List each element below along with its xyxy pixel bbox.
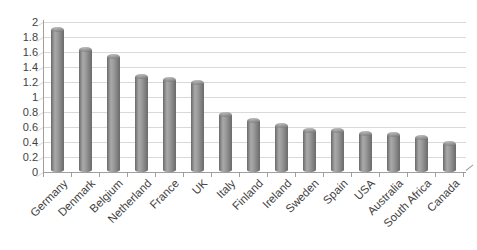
bar-canada: [443, 141, 456, 172]
bar-south-africa: [415, 135, 428, 172]
y-axis-tick-label: 0.8: [0, 105, 38, 119]
gridline: [43, 22, 466, 23]
bar-denmark: [79, 47, 92, 172]
y-axis-tick-label: 0.6: [0, 120, 38, 134]
y-axis-tick-label: 0.4: [0, 135, 38, 149]
bar-ireland: [275, 123, 288, 172]
floor-edge: [466, 165, 474, 171]
y-axis-tick-label: 1.2: [0, 75, 38, 89]
y-axis-tick-label: 1.8: [0, 30, 38, 44]
category-tick: [295, 173, 296, 177]
category-tick: [463, 173, 464, 177]
x-axis-label: France: [148, 177, 182, 211]
y-axis-tick-label: 0.2: [0, 150, 38, 164]
x-axis-label: Spain: [320, 177, 349, 206]
bar-france: [163, 77, 176, 172]
bar-australia: [387, 132, 400, 172]
bar-italy: [219, 112, 232, 172]
bar-finland: [247, 118, 260, 172]
category-tick: [379, 173, 380, 177]
y-axis-line: [43, 20, 44, 173]
category-tick: [323, 173, 324, 177]
category-tick: [43, 173, 44, 177]
bar-chart: 00.20.40.60.811.21.41.61.82GermanyDenmar…: [0, 0, 477, 250]
x-axis-label: UK: [190, 177, 210, 197]
bar-usa: [359, 131, 372, 172]
category-tick: [71, 173, 72, 177]
category-tick: [267, 173, 268, 177]
y-axis-tick-label: 2: [0, 15, 38, 29]
gridline: [43, 37, 466, 38]
x-axis-label: Finland: [230, 177, 265, 212]
bar-uk: [191, 80, 204, 172]
category-tick: [407, 173, 408, 177]
gridline: [43, 52, 466, 53]
x-axis-label: Italy: [214, 177, 237, 200]
category-tick: [183, 173, 184, 177]
category-tick: [351, 173, 352, 177]
bar-spain: [331, 128, 344, 172]
bar-belgium: [107, 54, 120, 172]
y-axis-tick-label: 1: [0, 90, 38, 104]
y-axis-tick-label: 0: [0, 165, 38, 179]
category-tick: [127, 173, 128, 177]
category-tick: [99, 173, 100, 177]
y-axis-tick-label: 1.4: [0, 60, 38, 74]
bar-germany: [51, 27, 64, 172]
category-tick: [435, 173, 436, 177]
category-tick: [211, 173, 212, 177]
bar-netherland: [135, 74, 148, 172]
category-tick: [155, 173, 156, 177]
category-tick: [239, 173, 240, 177]
bar-sweden: [303, 128, 316, 172]
y-axis-tick-label: 1.6: [0, 45, 38, 59]
x-axis-line: [43, 172, 466, 173]
